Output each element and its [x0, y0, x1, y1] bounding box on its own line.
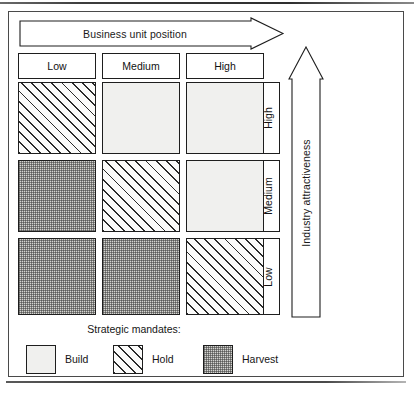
- legend-item-hold: Hold: [113, 344, 174, 374]
- legend-swatch-harvest: [203, 345, 233, 374]
- matrix-cell: [186, 238, 264, 315]
- x-axis-label: Business unit position: [19, 17, 251, 50]
- column-header-high: High: [186, 53, 264, 79]
- matrix-cell: [102, 82, 180, 154]
- column-header-medium: Medium: [102, 53, 180, 79]
- legend-swatch-hold: [113, 345, 143, 374]
- legend: Build Hold Harvest: [26, 344, 326, 378]
- scan-artifact-bottom-line: [6, 381, 406, 383]
- matrix-cell: [18, 238, 96, 315]
- matrix-cell: [18, 82, 96, 154]
- matrix-cell: [102, 238, 180, 315]
- column-header-low-text: Low: [47, 60, 66, 72]
- legend-item-harvest: Harvest: [203, 344, 278, 374]
- y-axis-label: Industry attractiveness: [288, 70, 324, 316]
- legend-label-hold: Hold: [152, 353, 174, 365]
- matrix-cell: [186, 160, 264, 232]
- legend-swatch-build: [26, 345, 56, 374]
- matrix-cell: [102, 160, 180, 232]
- strategy-matrix-grid: [18, 82, 250, 315]
- legend-title: Strategic mandates:: [18, 323, 250, 335]
- legend-label-build: Build: [65, 353, 88, 365]
- matrix-cell: [186, 82, 264, 154]
- scan-artifact-top-line: [0, 2, 414, 4]
- column-header-low: Low: [18, 53, 96, 79]
- legend-item-build: Build: [26, 344, 88, 374]
- column-header-high-text: High: [214, 60, 236, 72]
- matrix-cell: [18, 160, 96, 232]
- column-header-medium-text: Medium: [122, 60, 159, 72]
- legend-label-harvest: Harvest: [242, 353, 278, 365]
- y-axis-label-text: Industry attractiveness: [300, 139, 312, 246]
- x-axis-label-text: Business unit position: [83, 28, 187, 40]
